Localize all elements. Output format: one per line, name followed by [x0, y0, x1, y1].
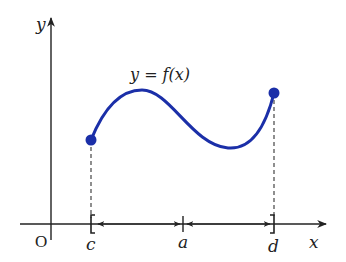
- label-c: c: [86, 234, 96, 254]
- endpoint-c: [86, 135, 97, 146]
- x-axis-label: x: [309, 232, 319, 252]
- label-d: d: [268, 236, 279, 256]
- diagram-canvas: y x O y = f(x) c a d: [0, 0, 346, 262]
- y-axis-label: y: [35, 14, 46, 34]
- curve-label: y = f(x): [129, 65, 190, 84]
- endpoint-d: [269, 88, 280, 99]
- function-curve: [91, 90, 274, 148]
- origin-label: O: [35, 232, 47, 251]
- label-a: a: [178, 232, 188, 252]
